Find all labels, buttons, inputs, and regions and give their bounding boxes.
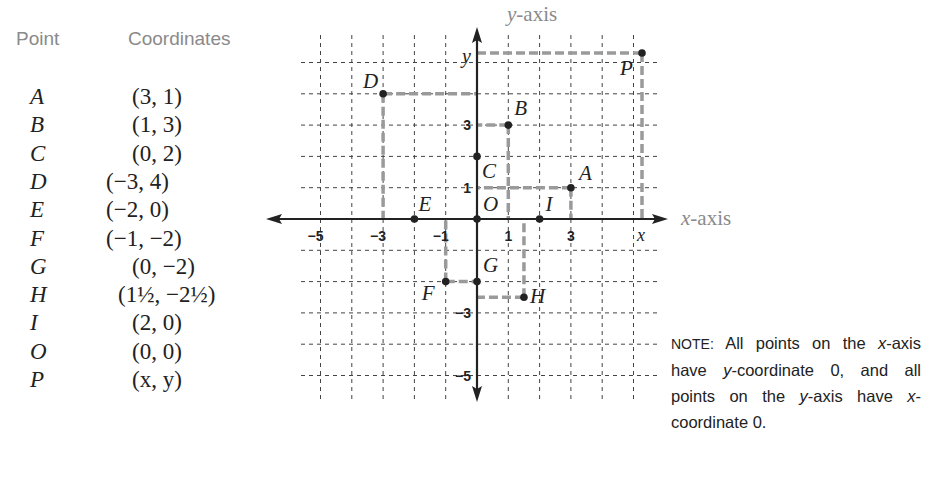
- point-b-marker: [505, 121, 513, 129]
- x-tick-label: −5: [308, 228, 324, 244]
- point-d-label: D: [362, 69, 378, 93]
- point-i-label: I: [545, 192, 554, 216]
- point-a-label: A: [577, 161, 592, 185]
- y-axis-caption: y-axis: [507, 2, 557, 27]
- x-tick-label: 3: [567, 228, 575, 244]
- point-e-label: E: [417, 192, 431, 216]
- point-o-label: O: [483, 192, 498, 216]
- point-c-label: C: [482, 159, 497, 183]
- y-tick-label: 1: [463, 180, 471, 196]
- point-a-marker: [567, 184, 575, 192]
- x-axis-caption: x-axis: [681, 206, 731, 231]
- y-tick-label: 3: [463, 117, 471, 133]
- point-g-label: G: [483, 253, 498, 277]
- point-g-marker: [473, 278, 481, 286]
- point-h-label: H: [529, 284, 547, 308]
- x-tick-label: −1: [433, 228, 449, 244]
- point-f-marker: [442, 278, 450, 286]
- point-d-marker: [379, 90, 387, 98]
- x-tick-label: 1: [504, 228, 512, 244]
- point-o-marker: [473, 215, 481, 223]
- point-e-marker: [411, 215, 419, 223]
- x-tick-label: −3: [370, 228, 386, 244]
- y-tick-label: −5: [455, 368, 471, 384]
- point-p-label: P: [619, 56, 633, 80]
- x-variable-label: x: [636, 225, 645, 245]
- note-label: NOTE:: [671, 336, 714, 352]
- point-i-marker: [536, 215, 544, 223]
- y-variable-label: y: [460, 45, 471, 68]
- point-f-label: F: [421, 281, 435, 305]
- note: NOTE: All points on the x-axis have y-co…: [671, 330, 921, 435]
- y-tick-label: −3: [455, 305, 471, 321]
- point-b-label: B: [514, 96, 527, 120]
- point-c-marker: [473, 153, 481, 161]
- point-h-marker: [520, 293, 528, 301]
- point-p-marker: [638, 49, 646, 57]
